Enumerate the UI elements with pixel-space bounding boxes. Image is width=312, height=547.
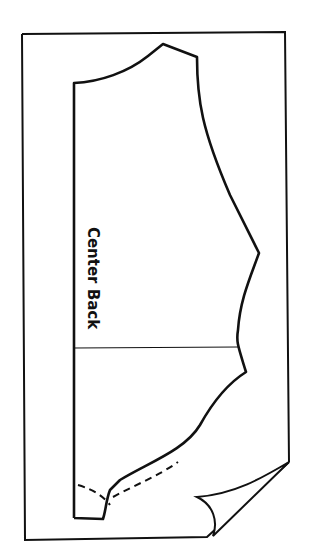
dashed-cutting-line [78, 462, 178, 505]
pattern-diagram [0, 0, 312, 547]
folded-corner [197, 462, 289, 536]
center-back-text: Center Back [84, 227, 102, 329]
center-back-label: Center Back [83, 218, 103, 338]
fabric-sheet [22, 32, 289, 540]
waistline [74, 347, 238, 348]
